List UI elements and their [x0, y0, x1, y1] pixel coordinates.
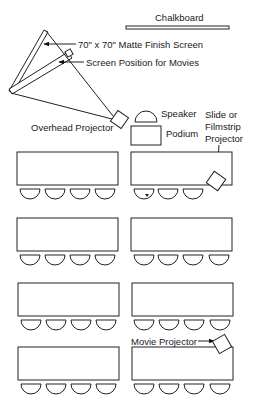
podium-label: Podium — [166, 128, 198, 139]
table-row-3-right — [132, 283, 233, 330]
table-row-2-left — [17, 218, 118, 265]
table-row-4-right — [132, 347, 233, 394]
movie-screen-position — [9, 49, 73, 94]
podium — [131, 126, 161, 145]
speaker — [135, 111, 157, 122]
chalkboard-label: Chalkboard — [155, 12, 204, 23]
movie-screen-label: Screen Position for Movies — [86, 57, 199, 68]
projection-line-bottom — [11, 93, 112, 119]
speaker-label: Speaker — [161, 108, 196, 119]
slide-projector-label-line2: Filmstrip — [205, 121, 241, 132]
table-row-2-right — [131, 218, 232, 265]
table-row-4-left — [18, 347, 119, 394]
table-row-1-left — [17, 152, 118, 199]
table-row-3-left — [18, 283, 119, 330]
chalkboard — [126, 26, 229, 29]
overhead-projector-label: Overhead Projector — [31, 122, 113, 133]
slide-projector-label-line1: Slide or — [205, 109, 237, 120]
matte-screen-label: 70" x 70" Matte Finish Screen — [78, 39, 203, 50]
movie-projector-label: Movie Projector — [131, 336, 197, 347]
slide-projector-label-line3: Projector — [205, 133, 243, 144]
classroom-layout-diagram: Chalkboard 70" x 70" Matte Finish Screen… — [0, 0, 253, 419]
